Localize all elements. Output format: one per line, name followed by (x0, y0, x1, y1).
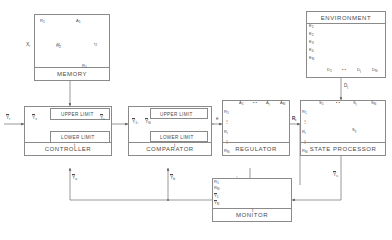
state-col-3: Sj (353, 101, 356, 106)
comparator-lower-limit-text: LOWER LIMIT (160, 135, 194, 140)
environment-label: ENVIRONMENT (307, 12, 385, 24)
environment-col-3: Dj (357, 68, 361, 73)
state-row-1: R1 (302, 110, 307, 115)
monitor-time-axis-label: t (252, 209, 253, 214)
state-row-3: Ri (302, 130, 306, 135)
state-input-label: Ri (292, 117, 296, 122)
state-col-4: SN (371, 101, 376, 106)
controller-label: CONTROLLER (25, 142, 111, 155)
regulator-row-4: ⋮ (225, 140, 229, 144)
feedback-label-comparator: Yb (170, 175, 175, 181)
regulator-row-1: R1 (224, 110, 229, 115)
diagram-canvas: MEMORY Xi R1 A1 R2 t1 t2 R1 ENVIRONMENT … (0, 0, 392, 240)
monitor-label-rn: RN (214, 186, 219, 191)
feedback-label-controller: Ya (72, 175, 77, 181)
controller-time-axis-label: t (74, 144, 75, 149)
comparator-input-label-n: YN (145, 119, 151, 125)
controller-upper-limit-text: UPPER LIMIT (61, 112, 94, 117)
environment-row-3: E3 (309, 40, 314, 45)
regulator-col-4: AN (280, 101, 285, 106)
environment-output-label: Dj (344, 84, 348, 89)
comparator-output-label: e (216, 117, 219, 122)
regulator-row-5: RN (224, 149, 229, 154)
memory-input-label: Xi (26, 42, 30, 48)
controller-input-label: Yr (6, 115, 10, 121)
regulator-col-2: • • (253, 101, 257, 105)
regulator-col-1: A1 (239, 101, 244, 106)
block-regulator[interactable]: REGULATOR (222, 100, 290, 156)
memory-plot1-ylabel: R1 (40, 19, 45, 24)
block-monitor[interactable]: MONITOR (212, 178, 292, 222)
memory-plot2-xlabel: t2 (94, 42, 97, 47)
state-col-1: S1 (319, 101, 324, 106)
comparator-label: COMPARATOR (129, 142, 211, 155)
controller-setpoint-label: Ys (32, 115, 37, 121)
monitor-label-yn: YN (214, 201, 219, 206)
controller-lower-limit-text: LOWER LIMIT (61, 135, 95, 140)
state-row-5: RN (302, 149, 307, 154)
state-row-2: ⋮ (303, 120, 307, 124)
state-cell-value: Sij (352, 128, 356, 133)
block-memory[interactable]: MEMORY (34, 14, 110, 81)
environment-row-4: E4 (309, 48, 314, 53)
comparator-lower-limit-band: LOWER LIMIT (150, 131, 208, 142)
environment-col-4: DN (372, 68, 377, 73)
state-col-2: • • (336, 101, 340, 105)
memory-plot3-xlabel: R1 (82, 64, 87, 69)
environment-row-1: E1 (309, 24, 314, 29)
controller-lower-limit-band: LOWER LIMIT (50, 131, 110, 143)
comparator-upper-limit-text: UPPER LIMIT (160, 112, 193, 117)
regulator-row-2: ⋮ (225, 120, 229, 124)
state-output-label: Ys (333, 172, 338, 178)
junction-dot-comparator (167, 199, 169, 201)
state-processor-label: STATE PROCESSOR (301, 142, 385, 155)
environment-row-5: EN (309, 56, 314, 61)
environment-col-2: • • (342, 68, 346, 72)
memory-plot1-xlabel: t1 (57, 42, 60, 47)
memory-plot2-ylabel: A1 (76, 19, 81, 24)
comparator-time-axis-label: t (174, 144, 175, 149)
controller-output-label: Yc (100, 115, 105, 121)
comparator-input-label-1: Y1, (132, 119, 139, 125)
state-row-4: ⋮ (303, 140, 307, 144)
regulator-row-3: Ri (224, 130, 228, 135)
environment-col-1: D1 (327, 68, 332, 73)
regulator-col-3: Aj (266, 101, 269, 106)
environment-row-2: E2 (309, 32, 314, 37)
regulator-label: REGULATOR (223, 142, 289, 155)
block-state-processor[interactable]: STATE PROCESSOR (300, 100, 386, 156)
memory-label: MEMORY (35, 67, 109, 80)
comparator-upper-limit-band: UPPER LIMIT (150, 108, 208, 119)
